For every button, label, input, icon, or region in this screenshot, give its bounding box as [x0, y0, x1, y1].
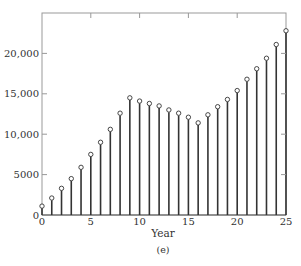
plot-frame [42, 13, 286, 215]
stem-marker [206, 113, 210, 117]
stem-marker [167, 108, 171, 112]
stem-marker [50, 196, 54, 200]
stem-marker [98, 140, 102, 144]
stem-marker [245, 77, 249, 81]
x-tick-label: 20 [231, 216, 244, 227]
stem-marker [176, 111, 180, 115]
plot-border [42, 13, 286, 215]
stem-marker [137, 99, 141, 103]
stem-marker [274, 42, 278, 46]
figure-caption: (e) [156, 244, 169, 255]
stem-marker [255, 67, 259, 71]
stem-marker [235, 88, 239, 92]
stem-marker [147, 101, 151, 105]
stem-marker [69, 176, 73, 180]
stem-marker [186, 115, 190, 119]
stem-marker [196, 121, 200, 125]
y-tick-label: 15,000 [4, 88, 39, 99]
x-tick-label: 0 [39, 216, 45, 227]
stem-marker [89, 152, 93, 156]
stem-marker [108, 127, 112, 131]
x-axis-ticks: 0510152025 [39, 13, 293, 227]
y-tick-label: 10,000 [4, 129, 39, 140]
y-tick-label: 20,000 [4, 48, 39, 59]
stem-marker [40, 204, 44, 208]
stem-marker [157, 104, 161, 108]
stem-chart: 0500010,00015,00020,000 0510152025 Year … [0, 0, 301, 266]
stem-marker [118, 111, 122, 115]
stem-marker [264, 56, 268, 60]
stem-marker [59, 186, 63, 190]
stem-marker [284, 29, 288, 33]
y-tick-label: 5000 [14, 169, 39, 180]
stem-marker [215, 105, 219, 109]
stem-marker [79, 165, 83, 169]
stem-marker [128, 96, 132, 100]
x-axis-label: Year [150, 227, 175, 239]
x-tick-label: 15 [182, 216, 195, 227]
data-stems [40, 29, 288, 215]
x-tick-label: 5 [88, 216, 94, 227]
y-axis-ticks: 0500010,00015,00020,000 [4, 48, 286, 221]
x-tick-label: 10 [133, 216, 146, 227]
x-tick-label: 25 [280, 216, 293, 227]
stem-marker [225, 97, 229, 101]
